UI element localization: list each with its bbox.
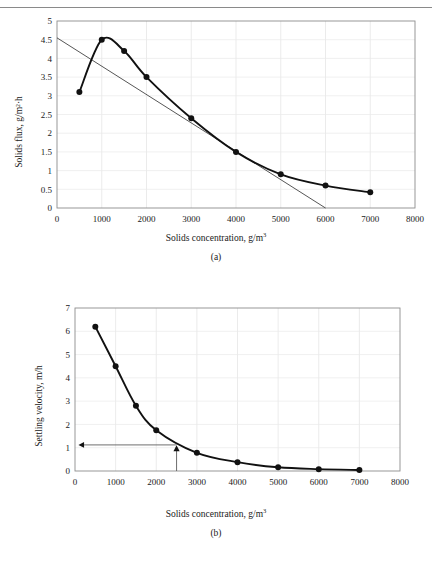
svg-text:3000: 3000 xyxy=(182,214,201,224)
svg-text:2.5: 2.5 xyxy=(41,110,53,120)
chart-a-y-axis-title: Solids flux, g/m²·h xyxy=(14,96,24,168)
svg-text:3: 3 xyxy=(66,396,71,406)
svg-text:6000: 6000 xyxy=(317,214,336,224)
chart-b-data-curve xyxy=(95,327,359,470)
svg-text:4: 4 xyxy=(66,373,71,383)
chart-b-x-axis-title-exponent: 3 xyxy=(263,507,266,514)
chart-a-data-markers xyxy=(76,37,373,196)
svg-text:2: 2 xyxy=(48,128,53,138)
chart-b-x-axis-title: Solids concentration, g/m3 xyxy=(0,507,432,519)
svg-text:5000: 5000 xyxy=(269,477,288,487)
svg-text:2000: 2000 xyxy=(147,477,166,487)
svg-text:4: 4 xyxy=(48,54,53,64)
chart-a-data-curve xyxy=(79,38,370,193)
svg-text:3000: 3000 xyxy=(188,477,207,487)
chart-b-y-axis-title: Settling velocity, m/h xyxy=(34,365,44,447)
svg-text:1: 1 xyxy=(48,166,53,176)
svg-text:7000: 7000 xyxy=(361,214,380,224)
chart-b-svg: Settling velocity, m/h 01000200030004000… xyxy=(0,296,432,506)
svg-text:6000: 6000 xyxy=(310,477,329,487)
svg-text:3.5: 3.5 xyxy=(41,72,53,82)
chart-b-x-tick-labels: 010002000300040005000600070008000 xyxy=(73,477,410,487)
chart-a-x-tick-labels: 010002000300040005000600070008000 xyxy=(55,214,425,224)
svg-text:5000: 5000 xyxy=(272,214,291,224)
svg-text:0: 0 xyxy=(66,466,71,476)
chart-b-data-markers xyxy=(92,324,362,473)
figure-a: Solids flux, g/m²·h 01000200030004000500… xyxy=(0,12,432,282)
chart-a-gridlines xyxy=(57,21,415,208)
svg-text:0: 0 xyxy=(55,214,60,224)
svg-text:1000: 1000 xyxy=(93,214,112,224)
chart-a-plot-area: Solids flux, g/m²·h 01000200030004000500… xyxy=(0,12,432,230)
svg-text:2000: 2000 xyxy=(138,214,157,224)
svg-text:4000: 4000 xyxy=(227,214,246,224)
chart-a-y-tick-labels: 00.511.522.533.544.55 xyxy=(41,16,53,213)
chart-b-gridlines xyxy=(75,308,400,471)
chart-b-plot-area: Settling velocity, m/h 01000200030004000… xyxy=(0,296,432,506)
svg-text:4000: 4000 xyxy=(229,477,248,487)
figure-b-caption: (b) xyxy=(0,528,432,538)
svg-text:0.5: 0.5 xyxy=(41,185,53,195)
chart-b-x-axis-title-text: Solids concentration, g/m xyxy=(166,509,263,519)
page-header-rule xyxy=(0,7,432,8)
svg-text:2: 2 xyxy=(66,420,71,430)
svg-text:7: 7 xyxy=(66,303,71,313)
chart-b-design-point-annotations xyxy=(78,442,179,471)
svg-text:8000: 8000 xyxy=(406,214,425,224)
svg-text:1.5: 1.5 xyxy=(41,147,53,157)
chart-a-x-axis-title-exponent: 3 xyxy=(263,231,266,238)
svg-text:1: 1 xyxy=(66,443,71,453)
svg-text:8000: 8000 xyxy=(391,477,410,487)
svg-text:6: 6 xyxy=(66,326,71,336)
figure-b: Settling velocity, m/h 01000200030004000… xyxy=(0,296,432,558)
svg-text:5: 5 xyxy=(66,350,71,360)
svg-text:4.5: 4.5 xyxy=(41,35,53,45)
chart-a-x-axis-title-text: Solids concentration, g/m xyxy=(166,233,263,243)
chart-a-x-axis-title: Solids concentration, g/m3 xyxy=(0,231,432,243)
svg-text:1000: 1000 xyxy=(107,477,126,487)
chart-a-svg: Solids flux, g/m²·h 01000200030004000500… xyxy=(0,12,432,230)
svg-text:0: 0 xyxy=(73,477,78,487)
svg-text:3: 3 xyxy=(48,91,53,101)
svg-text:7000: 7000 xyxy=(350,477,369,487)
svg-text:0: 0 xyxy=(48,203,53,213)
figure-a-caption: (a) xyxy=(0,252,432,262)
chart-b-y-tick-labels: 01234567 xyxy=(66,303,71,476)
svg-text:5: 5 xyxy=(48,16,53,26)
